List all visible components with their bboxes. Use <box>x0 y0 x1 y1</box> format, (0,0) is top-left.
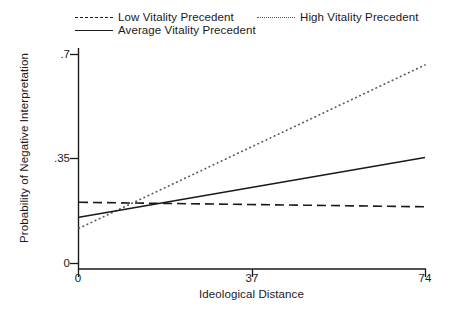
y-axis-title: Probability of Negative Interpretation <box>16 32 32 264</box>
x-axis-title: Ideological Distance <box>78 288 425 301</box>
legend-swatch-solid-icon <box>75 30 113 31</box>
legend-label-low-vitality: Low Vitality Precedent <box>118 11 234 23</box>
y-tick-label-wrap-0.35: .35 <box>34 152 70 164</box>
y-tick-label-wrap-0: 0 <box>34 257 70 269</box>
legend-item-average-vitality[interactable]: Average Vitality Precedent <box>75 24 256 36</box>
series-line-average-vitality <box>79 158 425 218</box>
chart-figure: Low Vitality Precedent Average Vitality … <box>0 0 451 311</box>
legend-item-high-vitality[interactable]: High Vitality Precedent <box>257 11 418 23</box>
legend-label-high-vitality: High Vitality Precedent <box>300 11 418 23</box>
y-tick-label-0.35: .35 <box>36 152 70 164</box>
legend-label-average-vitality: Average Vitality Precedent <box>118 24 256 36</box>
legend-swatch-dashed-icon <box>75 17 113 18</box>
y-tick-label-0.7: .7 <box>36 48 70 60</box>
y-tick-label-0: 0 <box>36 257 70 269</box>
legend-swatch-dotted-icon <box>257 17 295 18</box>
x-tick-label-37: 37 <box>232 272 272 285</box>
x-tick-label-74: 74 <box>405 272 445 285</box>
x-tick-label-0: 0 <box>58 272 98 285</box>
series-line-low-vitality <box>79 202 425 206</box>
y-tick-label-wrap-0.7: .7 <box>34 48 70 60</box>
legend-item-low-vitality[interactable]: Low Vitality Precedent <box>75 11 234 23</box>
